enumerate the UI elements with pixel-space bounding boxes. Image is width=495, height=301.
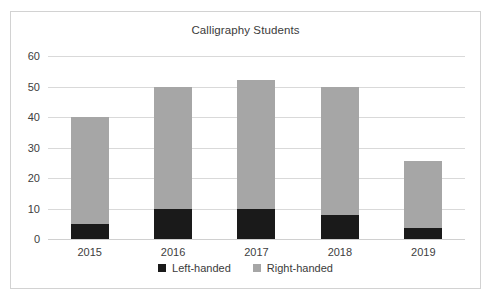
bar-group-2019[interactable]: 2019	[382, 56, 465, 239]
chart-legend: Left-handedRight-handed	[11, 262, 480, 274]
bar-segment-left-handed-2019[interactable]	[404, 228, 442, 239]
y-axis-label-40: 40	[28, 111, 40, 123]
bar-segment-right-handed-2017[interactable]	[237, 80, 275, 208]
bar-segment-right-handed-2018[interactable]	[321, 87, 359, 215]
legend-item-right-handed[interactable]: Right-handed	[253, 262, 333, 274]
legend-item-left-handed[interactable]: Left-handed	[158, 262, 231, 274]
stacked-bar[interactable]	[404, 161, 442, 239]
y-axis-label-10: 10	[28, 203, 40, 215]
stacked-bar[interactable]	[237, 80, 275, 239]
x-axis-label-2019: 2019	[411, 246, 435, 258]
bar-segment-left-handed-2018[interactable]	[321, 215, 359, 239]
legend-swatch-icon	[253, 264, 261, 272]
y-axis-label-60: 60	[28, 50, 40, 62]
bar-group-2018[interactable]: 2018	[298, 56, 381, 239]
bar-segment-right-handed-2015[interactable]	[71, 117, 109, 224]
bar-group-2016[interactable]: 2016	[131, 56, 214, 239]
legend-label: Left-handed	[172, 262, 231, 274]
gridline-0	[48, 239, 465, 240]
y-axis-label-0: 0	[34, 233, 40, 245]
bar-segment-left-handed-2015[interactable]	[71, 224, 109, 239]
y-axis-label-50: 50	[28, 81, 40, 93]
x-axis-label-2015: 2015	[77, 246, 101, 258]
x-axis-label-2018: 2018	[328, 246, 352, 258]
chart-title: Calligraphy Students	[11, 24, 480, 36]
legend-label: Right-handed	[267, 262, 333, 274]
x-axis-label-2016: 2016	[161, 246, 185, 258]
x-axis-label-2017: 2017	[244, 246, 268, 258]
stacked-bar[interactable]	[71, 117, 109, 239]
chart-container: Calligraphy Students 6050403020100 20152…	[10, 11, 481, 289]
stacked-bar[interactable]	[321, 87, 359, 239]
y-axis-label-20: 20	[28, 172, 40, 184]
bar-segment-left-handed-2017[interactable]	[237, 209, 275, 240]
bar-segment-left-handed-2016[interactable]	[154, 209, 192, 240]
legend-swatch-icon	[158, 264, 166, 272]
stacked-bar[interactable]	[154, 87, 192, 240]
bar-group-2015[interactable]: 2015	[48, 56, 131, 239]
bar-segment-right-handed-2019[interactable]	[404, 161, 442, 228]
y-axis-label-30: 30	[28, 142, 40, 154]
plot-area: 6050403020100 20152016201720182019	[48, 56, 465, 239]
bar-segment-right-handed-2016[interactable]	[154, 87, 192, 209]
bar-group-2017[interactable]: 2017	[215, 56, 298, 239]
